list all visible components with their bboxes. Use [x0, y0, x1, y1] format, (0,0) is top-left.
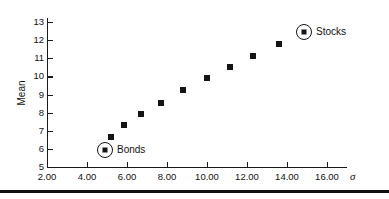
y-tick-mark: [48, 131, 53, 132]
circled-square-marker-icon: [97, 142, 113, 158]
data-point: [121, 122, 127, 128]
x-tick-label: 10.00: [187, 172, 227, 182]
y-tick-mark: [48, 113, 53, 114]
y-tick-mark: [48, 58, 53, 59]
data-point: [108, 134, 114, 140]
x-tick-label: 12.00: [227, 172, 267, 182]
y-tick-mark: [48, 76, 53, 77]
y-tick-label: 13: [24, 17, 44, 27]
chart-screenshot: Mean σ 5678910111213 2.004.006.008.0010.…: [0, 0, 389, 199]
x-tick-mark: [247, 162, 248, 167]
figure-bottom-rule: [0, 190, 389, 193]
data-point: [158, 100, 164, 106]
x-tick-label: 6.00: [107, 172, 147, 182]
x-tick-mark: [87, 162, 88, 167]
data-point: [138, 111, 144, 117]
x-tick-mark: [47, 162, 48, 167]
data-point: [204, 75, 210, 81]
annotation-stocks: Stocks: [296, 24, 346, 40]
x-tick-label: 4.00: [67, 172, 107, 182]
y-tick-label: 12: [24, 35, 44, 45]
x-tick-mark: [207, 162, 208, 167]
y-tick-label: 7: [24, 126, 44, 136]
annotation-bonds: Bonds: [97, 142, 145, 158]
x-axis-line: [47, 167, 347, 168]
annotation-label: Stocks: [316, 27, 346, 37]
y-tick-mark: [48, 149, 53, 150]
y-tick-mark: [48, 40, 53, 41]
circled-square-marker-icon: [296, 24, 312, 40]
x-tick-label: 2.00: [27, 172, 67, 182]
x-tick-label: 14.00: [267, 172, 307, 182]
annotation-label: Bonds: [117, 145, 145, 155]
x-tick-label: 8.00: [147, 172, 187, 182]
y-tick-mark: [48, 95, 53, 96]
y-tick-label: 8: [24, 108, 44, 118]
data-point: [276, 41, 282, 47]
data-point: [227, 64, 233, 70]
x-tick-mark: [127, 162, 128, 167]
data-point: [250, 53, 256, 59]
x-axis-title: σ: [350, 171, 355, 182]
scatter-plot: Mean σ 5678910111213 2.004.006.008.0010.…: [0, 0, 389, 188]
x-tick-mark: [327, 162, 328, 167]
y-tick-label: 6: [24, 144, 44, 154]
y-tick-mark: [48, 22, 53, 23]
x-tick-label: 16.00: [307, 172, 347, 182]
data-point: [180, 87, 186, 93]
y-tick-label: 9: [24, 90, 44, 100]
x-tick-mark: [167, 162, 168, 167]
x-tick-mark: [287, 162, 288, 167]
y-tick-label: 10: [24, 71, 44, 81]
y-tick-mark: [48, 167, 53, 168]
y-tick-label: 11: [24, 53, 44, 63]
